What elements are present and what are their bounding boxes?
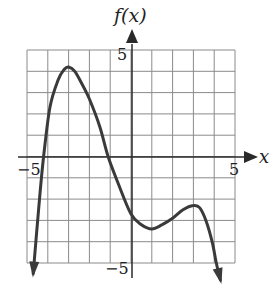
y-axis-title: f(x) — [112, 4, 147, 26]
y-axis-arrow-icon — [126, 29, 138, 43]
y-tick-min-label: −5 — [105, 259, 129, 278]
x-tick-max-label: 5 — [229, 160, 239, 179]
y-tick-max-label: 5 — [117, 45, 127, 64]
x-axis-title: x — [259, 146, 269, 167]
x-axis-arrow-icon — [244, 151, 258, 163]
curve-right-end-arrow-icon — [213, 267, 223, 284]
x-tick-min-label: −5 — [17, 160, 41, 179]
curve-left-end-arrow-icon — [29, 261, 39, 277]
function-graph: f(x) x −5 5 5 −5 — [0, 0, 279, 306]
function-curve — [33, 67, 220, 280]
